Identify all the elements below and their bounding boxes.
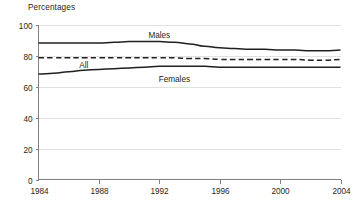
x-tick-label: 2004 <box>332 187 351 196</box>
x-tick-label: 1988 <box>90 187 109 196</box>
y-axis-tick-labels: 020406080100 <box>19 22 33 186</box>
y-tick-label: 80 <box>23 53 33 62</box>
tick-marks-group <box>36 26 342 184</box>
series-line-males <box>39 42 341 51</box>
x-tick-label: 1984 <box>30 187 49 196</box>
series-line-all <box>39 58 341 60</box>
y-tick-label: 100 <box>19 22 33 31</box>
axes-group <box>39 25 341 180</box>
x-axis-tick-labels: 198419881992199620002004 <box>30 187 351 196</box>
x-tick-label: 1996 <box>211 187 230 196</box>
x-tick-label: 1992 <box>150 187 169 196</box>
series-label-females: Females <box>159 75 190 84</box>
x-tick-label: 2000 <box>271 187 290 196</box>
percentages-line-chart: Percentages 020406080100 198419881992199… <box>0 0 355 209</box>
y-tick-label: 60 <box>23 84 33 93</box>
series-label-males: Males <box>148 31 170 40</box>
y-tick-label: 40 <box>23 115 33 124</box>
series-label-all: All <box>79 61 88 70</box>
y-tick-label: 20 <box>23 146 33 155</box>
chart-plot-area: 020406080100 198419881992199620002004 Ma… <box>0 0 355 209</box>
y-tick-label: 0 <box>28 177 33 186</box>
